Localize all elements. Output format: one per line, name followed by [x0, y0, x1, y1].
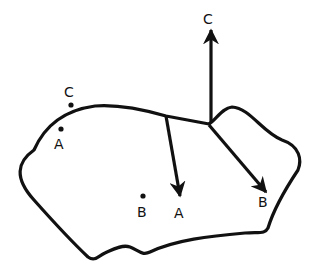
arrow-a-label: A [174, 205, 184, 221]
diagram-canvas: C A B C A B [0, 0, 320, 275]
arrow-b-label: B [258, 194, 268, 210]
arrow-b [209, 125, 266, 192]
point-a-dot [58, 126, 63, 131]
point-c-label: C [64, 84, 74, 100]
arrow-c-label: C [203, 11, 213, 27]
point-b-dot [140, 193, 145, 198]
point-b-label: B [137, 204, 147, 220]
point-a-label: A [54, 136, 64, 152]
point-c-dot [68, 102, 73, 107]
arrow-a [166, 116, 180, 196]
